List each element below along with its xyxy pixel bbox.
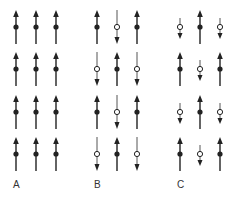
spin-up-icon [53, 137, 59, 171]
panel-c [177, 10, 223, 171]
panel-b [94, 10, 140, 171]
spin-down-icon [114, 95, 119, 129]
spin-up-icon [13, 137, 19, 171]
spin-lattice-diagram [0, 0, 239, 203]
spin-up-icon [33, 52, 39, 86]
spin-up-icon [13, 95, 19, 129]
spin-down-icon [94, 52, 99, 86]
spin-up-icon [53, 95, 59, 129]
spin-up-icon [13, 52, 19, 86]
spin-up-icon [33, 10, 39, 44]
spin-up-icon [53, 52, 59, 86]
spin-up-icon [53, 10, 59, 44]
panel-label-b: B [94, 179, 101, 190]
spin-up-icon [134, 10, 140, 44]
spin-up-icon [33, 95, 39, 129]
spin-short-down-icon [177, 18, 182, 39]
spin-short-down-icon [217, 18, 222, 39]
spin-up-icon [114, 52, 120, 86]
spin-up-icon [114, 137, 120, 171]
spin-short-down-icon [217, 103, 222, 124]
spin-down-icon [94, 137, 99, 171]
spin-down-icon [134, 52, 139, 86]
spin-up-icon [177, 52, 183, 86]
spin-up-icon [217, 137, 223, 171]
spin-short-down-icon [177, 103, 182, 124]
spin-short-down-icon [197, 60, 202, 81]
spin-up-icon [94, 95, 100, 129]
spin-up-icon [217, 52, 223, 86]
spin-up-icon [134, 95, 140, 129]
spin-short-down-icon [197, 145, 202, 166]
panel-a [13, 10, 59, 171]
spin-up-icon [13, 10, 19, 44]
spin-up-icon [94, 10, 100, 44]
panel-label-a: A [13, 179, 20, 190]
panel-label-c: C [177, 179, 184, 190]
spin-up-icon [197, 10, 203, 44]
spin-down-icon [114, 10, 119, 44]
spin-up-icon [177, 137, 183, 171]
spin-up-icon [33, 137, 39, 171]
spin-down-icon [134, 137, 139, 171]
spin-up-icon [197, 95, 203, 129]
